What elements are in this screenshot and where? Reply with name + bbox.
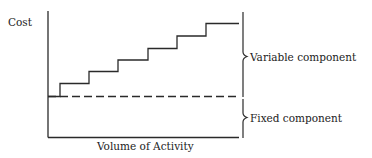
y-axis-label: Cost bbox=[8, 17, 32, 28]
variable-brace bbox=[243, 12, 247, 97]
chart-canvas bbox=[0, 0, 372, 158]
fixed-component-label: Fixed component bbox=[250, 113, 342, 124]
fixed-brace bbox=[243, 99, 247, 138]
x-axis-label: Volume of Activity bbox=[97, 141, 194, 152]
variable-component-label: Variable component bbox=[250, 52, 356, 63]
step-cost-line bbox=[48, 24, 239, 97]
